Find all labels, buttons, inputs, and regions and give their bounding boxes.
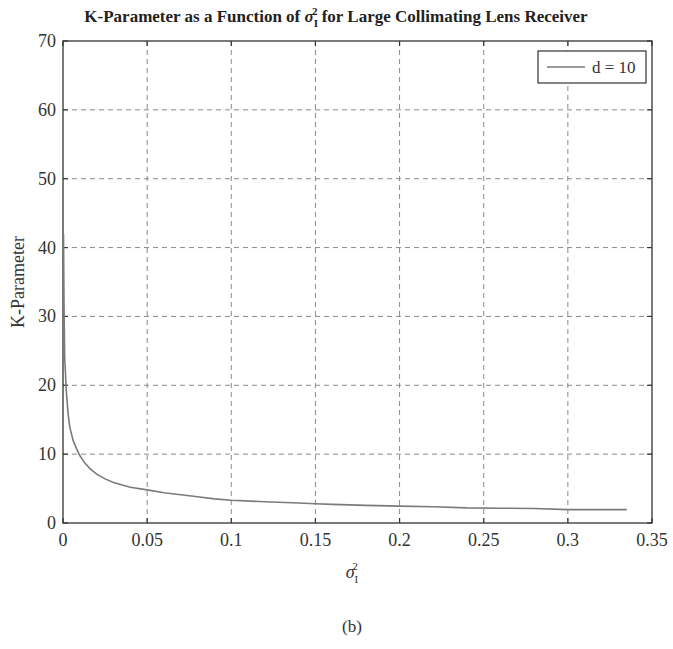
y-tick-label: 10 <box>38 444 56 464</box>
legend: d = 10 <box>538 51 646 83</box>
grid-lines <box>63 41 652 523</box>
y-tick-labels: 010203040506070 <box>38 31 56 533</box>
y-tick-label: 0 <box>47 513 56 533</box>
figure-caption: (b) <box>342 617 362 636</box>
y-tick-label: 40 <box>38 238 56 258</box>
x-tick-label: 0.1 <box>220 530 243 550</box>
y-tick-label: 30 <box>38 306 56 326</box>
chart-title: K-Parameter as a Function of σI2 for Lar… <box>84 5 588 29</box>
x-tick-label: 0.35 <box>636 530 668 550</box>
x-tick-label: 0.05 <box>131 530 163 550</box>
x-tick-labels: 00.050.10.150.20.250.30.35 <box>59 530 668 550</box>
axis-ticks <box>63 41 652 523</box>
y-tick-label: 20 <box>38 375 56 395</box>
series-line-d10 <box>64 234 627 510</box>
legend-label: d = 10 <box>592 58 636 77</box>
plot-area-frame <box>63 41 652 523</box>
x-tick-label: 0.15 <box>300 530 332 550</box>
chart: K-Parameter as a Function of σI2 for Lar… <box>0 0 673 649</box>
x-tick-label: 0.2 <box>388 530 411 550</box>
y-tick-label: 60 <box>38 100 56 120</box>
y-axis-label: K-Parameter <box>8 236 28 328</box>
y-tick-label: 70 <box>38 31 56 51</box>
x-tick-label: 0.25 <box>468 530 500 550</box>
x-axis-label: σI2 <box>346 560 359 585</box>
x-tick-label: 0 <box>59 530 68 550</box>
x-tick-label: 0.3 <box>557 530 580 550</box>
y-tick-label: 50 <box>38 169 56 189</box>
